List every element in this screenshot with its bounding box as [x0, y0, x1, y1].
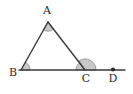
- point-dot-D: [111, 67, 115, 71]
- vertex-label-a: A: [42, 4, 52, 17]
- angle-markers-group: [21, 22, 96, 70]
- vertex-label-d: D: [109, 72, 118, 85]
- side-AC: [48, 22, 85, 70]
- vertex-label-c: C: [82, 72, 90, 85]
- side-AB: [21, 22, 48, 70]
- segments-group: [19, 22, 125, 70]
- geometry-canvas: A B C D: [0, 0, 133, 94]
- vertex-label-b: B: [9, 66, 17, 79]
- geometry-figure: A B C D: [0, 0, 133, 94]
